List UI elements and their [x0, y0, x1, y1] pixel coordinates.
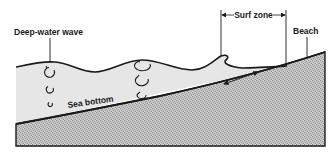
wave-diagram: Deep-water wave Surf zone Beach Sea bott…	[0, 0, 334, 156]
beach-label: Beach	[293, 26, 319, 36]
surf-zone-label: Surf zone	[234, 10, 273, 20]
deep-water-wave-label: Deep-water wave	[14, 27, 83, 37]
